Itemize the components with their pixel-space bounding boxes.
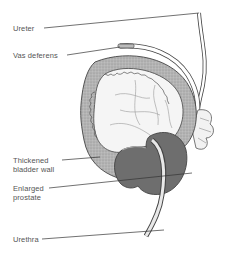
label-vas-deferens-text: Vas deferens xyxy=(13,51,58,60)
label-enlarged-line1: Enlarged xyxy=(13,184,44,193)
label-thickened-line2: bladder wall xyxy=(13,165,54,174)
vas-deferens-leader xyxy=(67,47,120,55)
label-vas-deferens: Vas deferens xyxy=(13,51,58,60)
label-thickened-bladder-wall: Thickened bladder wall xyxy=(13,156,54,174)
ureter-leader xyxy=(44,13,199,28)
label-enlarged-prostate: Enlarged prostate xyxy=(13,184,44,202)
label-ureter: Ureter xyxy=(13,24,34,33)
bladder-prostate-diagram: Ureter Vas deferens Thickened bladder wa… xyxy=(0,0,242,256)
label-ureter-text: Ureter xyxy=(13,24,34,33)
label-enlarged-line2: prostate xyxy=(13,193,44,202)
label-thickened-line1: Thickened xyxy=(13,156,54,165)
anatomy-illustration xyxy=(0,0,242,256)
label-urethra-text: Urethra xyxy=(13,235,39,244)
label-urethra: Urethra xyxy=(13,235,39,244)
